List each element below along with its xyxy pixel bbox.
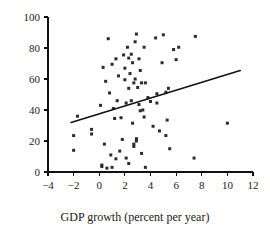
data-point [125,102,128,105]
y-tick-label: 80 [29,42,41,54]
data-point [127,57,130,60]
x-tick-label: −2 [68,179,80,191]
data-point [167,87,170,90]
data-point [155,102,158,105]
data-point [72,134,75,137]
data-point [113,117,116,120]
data-point [108,91,111,94]
data-point [134,78,137,81]
data-point [161,61,164,64]
data-point [123,78,126,81]
data-point [168,147,171,150]
data-point [139,69,142,72]
data-point [226,122,229,125]
data-point [104,80,107,83]
data-point [130,99,133,102]
data-point [123,67,126,70]
data-point [130,53,133,56]
data-point [166,119,169,122]
y-tick-label: 0 [35,166,41,178]
data-point [131,61,134,64]
data-point [140,81,143,84]
data-point [116,99,119,102]
data-point [136,86,139,89]
trend-line [71,70,240,122]
data-point [172,48,175,51]
data-point [162,33,165,36]
y-tick-label-group: 020406080100 [24,11,41,178]
data-point [132,81,135,84]
data-point [102,66,105,69]
data-point [193,157,196,160]
data-point [125,157,128,160]
x-tick-label: 6 [173,179,179,191]
x-tick-label: 8 [199,179,205,191]
data-point [154,36,157,39]
data-point [103,143,106,146]
data-point [90,133,93,136]
data-point-group [72,33,229,170]
data-point [194,35,197,38]
data-point [141,109,144,112]
x-tick-label: 0 [97,179,103,191]
data-point [100,165,103,168]
data-point [111,63,114,66]
data-point [134,40,137,43]
data-point [72,149,75,152]
data-point [90,128,93,131]
x-axis-title: GDP growth (percent per year) [61,210,210,224]
data-point [152,125,155,128]
data-point [127,87,130,90]
data-point [164,134,167,137]
data-point [144,166,147,169]
data-point [111,166,114,169]
data-point [99,104,102,107]
x-tick-label: 10 [222,179,234,191]
y-tick-mark-group [44,17,48,172]
plot-area: 020406080100 −4−2024681012 GDP growth (p… [0,0,270,234]
x-tick-mark-group [48,172,253,176]
data-point [149,100,152,103]
data-point [114,157,117,160]
x-tick-label: 4 [148,179,154,191]
data-point [155,92,158,95]
data-point [109,153,112,156]
y-tick-label: 20 [29,135,41,147]
data-point [143,46,146,49]
data-point [117,74,120,77]
data-point [177,46,180,49]
data-point [126,46,129,49]
x-tick-label: 12 [248,179,259,191]
data-point [129,72,132,75]
data-point [135,33,138,36]
x-tick-label-group: −4−2024681012 [42,179,258,191]
data-point [107,37,110,40]
data-point [143,115,146,118]
y-tick-label: 40 [29,104,41,116]
data-point [131,122,134,125]
data-point [137,103,140,106]
data-point [127,162,130,165]
data-point [122,53,125,56]
data-point [105,167,108,170]
data-point [76,115,79,118]
y-tick-label: 100 [24,11,41,23]
data-point [114,57,117,60]
data-point [137,57,140,60]
data-point [158,129,161,132]
data-point [121,138,124,141]
data-point [140,152,143,155]
data-point [139,109,142,112]
data-point [118,150,121,153]
scatter-chart: 020406080100 −4−2024681012 GDP growth (p… [0,0,270,234]
data-point [132,145,135,148]
data-point [175,58,178,61]
data-point [120,116,123,119]
data-point [144,81,147,84]
x-tick-label: −4 [42,179,54,191]
data-point [135,140,138,143]
x-tick-label: 2 [122,179,128,191]
y-tick-label: 60 [29,73,41,85]
